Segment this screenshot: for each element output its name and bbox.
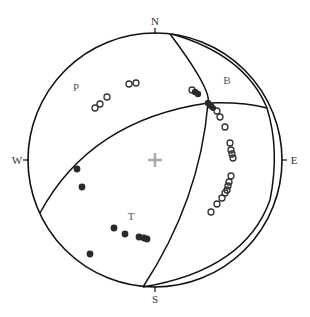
east-label: E xyxy=(291,154,298,166)
nodal-plane-2 xyxy=(40,103,267,213)
t-axis-points xyxy=(74,89,216,258)
p-axis-points xyxy=(92,80,236,215)
b-field-label: B xyxy=(223,74,230,86)
auxiliary-plane xyxy=(143,34,274,287)
south-label: S xyxy=(152,293,158,305)
plus-icon xyxy=(148,153,162,167)
stereonet-diagram: N S W E P T B xyxy=(0,0,310,317)
p-field-label: P xyxy=(73,81,79,93)
north-label: N xyxy=(151,15,159,27)
t-field-label: T xyxy=(128,210,135,222)
west-label: W xyxy=(12,154,23,166)
